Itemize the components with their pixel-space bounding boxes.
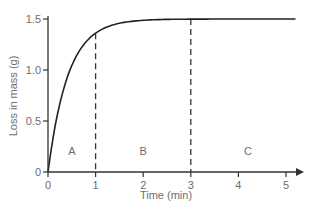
region-label-a: A <box>68 145 76 157</box>
y-ticks: 00.51.01.5 <box>26 13 48 178</box>
x-tick-label: 4 <box>235 179 241 191</box>
data-curve <box>48 19 296 172</box>
y-tick-label: 0 <box>35 166 41 178</box>
y-tick-label: 1.0 <box>26 64 41 76</box>
x-tick-label: 0 <box>45 179 51 191</box>
x-tick-label: 1 <box>93 179 99 191</box>
region-label-c: C <box>244 145 252 157</box>
y-tick-label: 1.5 <box>26 13 41 25</box>
y-axis-label: Loss in mass (g) <box>7 56 19 137</box>
loss-curve <box>48 19 296 172</box>
region-label-b: B <box>140 145 147 157</box>
x-axis-arrow-icon <box>296 168 304 176</box>
chart: 012345 00.51.01.5 ABC Time (min) Loss in… <box>0 0 312 214</box>
x-tick-label: 5 <box>283 179 289 191</box>
y-tick-label: 0.5 <box>26 115 41 127</box>
x-axis-label: Time (min) <box>140 189 192 201</box>
axes <box>48 16 304 176</box>
